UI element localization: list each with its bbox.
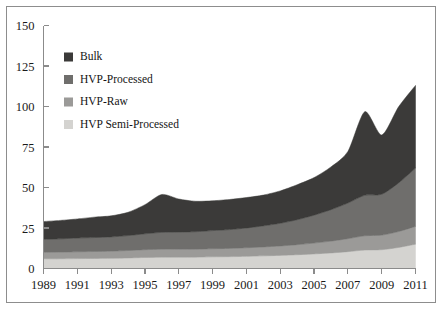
legend-swatch-hvp-semi-processed xyxy=(64,120,73,129)
legend-swatch-hvp-raw xyxy=(64,98,73,107)
y-tick-label: 150 xyxy=(16,19,35,33)
x-tick-label: 1989 xyxy=(31,278,56,292)
legend-swatch-bulk xyxy=(64,53,73,62)
x-tick-label: 2007 xyxy=(335,278,360,292)
x-tick-label: 2009 xyxy=(369,278,394,292)
x-tick-label: 1997 xyxy=(166,278,191,292)
legend-label-hvp-semi-processed: HVP Semi-Processed xyxy=(80,118,179,130)
legend-label-bulk: Bulk xyxy=(80,50,103,62)
y-tick-label: 0 xyxy=(28,262,34,276)
y-tick-label: 75 xyxy=(22,141,35,155)
legend-label-hvp-processed: HVP-Processed xyxy=(80,73,153,85)
area-series-group xyxy=(44,85,416,268)
y-tick-label: 100 xyxy=(16,100,35,114)
stacked-area-chart: 0255075100125150 19891991199319951997199… xyxy=(0,0,443,310)
x-tick-label: 2005 xyxy=(302,278,327,292)
x-tick-label: 1993 xyxy=(99,278,124,292)
x-tick-label: 1999 xyxy=(200,278,225,292)
x-tick-label: 2011 xyxy=(403,278,428,292)
legend-label-hvp-raw: HVP-Raw xyxy=(80,95,129,107)
y-tick-label: 50 xyxy=(22,181,35,195)
legend-swatch-hvp-processed xyxy=(64,75,73,84)
x-tick-label: 2001 xyxy=(234,278,259,292)
chart-figure: 0255075100125150 19891991199319951997199… xyxy=(0,0,443,310)
y-tick-label: 125 xyxy=(16,60,35,74)
x-axis-ticks: 1989199119931995199719992001200320052007… xyxy=(31,269,428,292)
x-tick-label: 1995 xyxy=(132,278,157,292)
x-tick-label: 2003 xyxy=(268,278,293,292)
chart-legend: BulkHVP-ProcessedHVP-RawHVP Semi-Process… xyxy=(64,50,179,130)
y-tick-label: 25 xyxy=(22,222,35,236)
x-tick-label: 1991 xyxy=(65,278,90,292)
